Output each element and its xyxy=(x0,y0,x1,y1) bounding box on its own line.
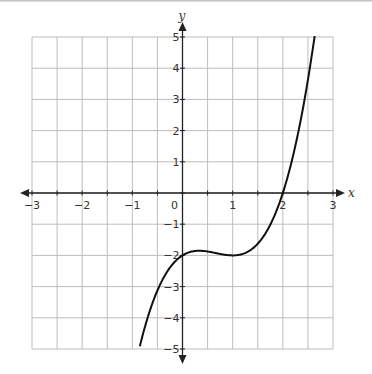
x-tick-label: 1 xyxy=(229,199,236,212)
x-tick-label: −3 xyxy=(24,199,40,212)
y-tick-label: −5 xyxy=(163,343,179,356)
cubic-function-graph: −3−2−10123−5−4−3−2−112345xy xyxy=(0,0,372,374)
y-axis-label: y xyxy=(178,9,186,23)
x-tick-label: 0 xyxy=(171,199,178,212)
y-tick-label: −4 xyxy=(163,312,179,325)
x-axis-label: x xyxy=(348,186,355,200)
x-tick-label: 3 xyxy=(330,199,337,212)
y-tick-label: 4 xyxy=(173,62,180,75)
x-axis-left-arrow-icon xyxy=(20,189,29,197)
x-tick-label: −2 xyxy=(74,199,90,212)
y-tick-label: 1 xyxy=(173,156,180,169)
y-axis-down-arrow-icon xyxy=(179,355,187,364)
y-tick-label: 3 xyxy=(173,93,180,106)
x-axis-right-arrow-icon xyxy=(336,189,345,197)
y-tick-label: 5 xyxy=(173,31,180,44)
function-curve xyxy=(140,37,316,346)
y-tick-label: −3 xyxy=(163,281,179,294)
x-tick-label: −1 xyxy=(124,199,140,212)
y-tick-label: 2 xyxy=(173,125,180,138)
y-tick-label: −1 xyxy=(163,218,179,231)
y-axis-up-arrow-icon xyxy=(179,22,187,31)
